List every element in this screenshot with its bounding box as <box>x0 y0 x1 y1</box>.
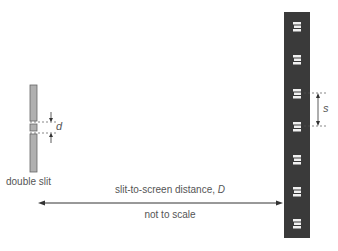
slit-barrier-bottom <box>30 134 37 172</box>
not-to-scale-note: not to scale <box>90 209 250 220</box>
fringe <box>293 122 301 132</box>
screen <box>284 12 310 238</box>
fringe <box>293 89 301 99</box>
double-slit-label: double slit <box>6 176 51 187</box>
slit-barrier-middle <box>30 124 37 131</box>
distance-label-text: slit-to-screen distance, <box>115 184 218 195</box>
distance-arrow <box>38 201 283 206</box>
slit-separation-label: d <box>56 120 62 132</box>
fringe <box>293 22 301 32</box>
fringe-spacing-label: s <box>323 102 329 114</box>
distance-symbol: D <box>218 184 225 195</box>
double-slit <box>30 85 37 172</box>
screen-bar <box>284 12 310 238</box>
fringe <box>293 55 301 65</box>
fringe <box>293 187 301 197</box>
fringe <box>293 219 301 229</box>
fringe <box>293 155 301 165</box>
distance-label: slit-to-screen distance, D <box>90 184 250 195</box>
slit-barrier-top <box>30 85 37 121</box>
